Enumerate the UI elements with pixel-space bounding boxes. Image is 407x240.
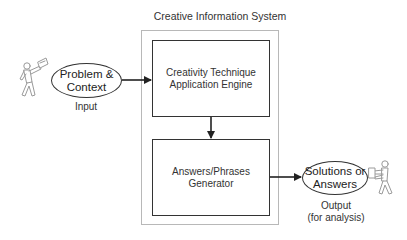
person-holding-paper-icon xyxy=(369,161,392,194)
connectors-and-actors xyxy=(0,0,407,240)
person-holding-paper-icon xyxy=(20,58,48,96)
